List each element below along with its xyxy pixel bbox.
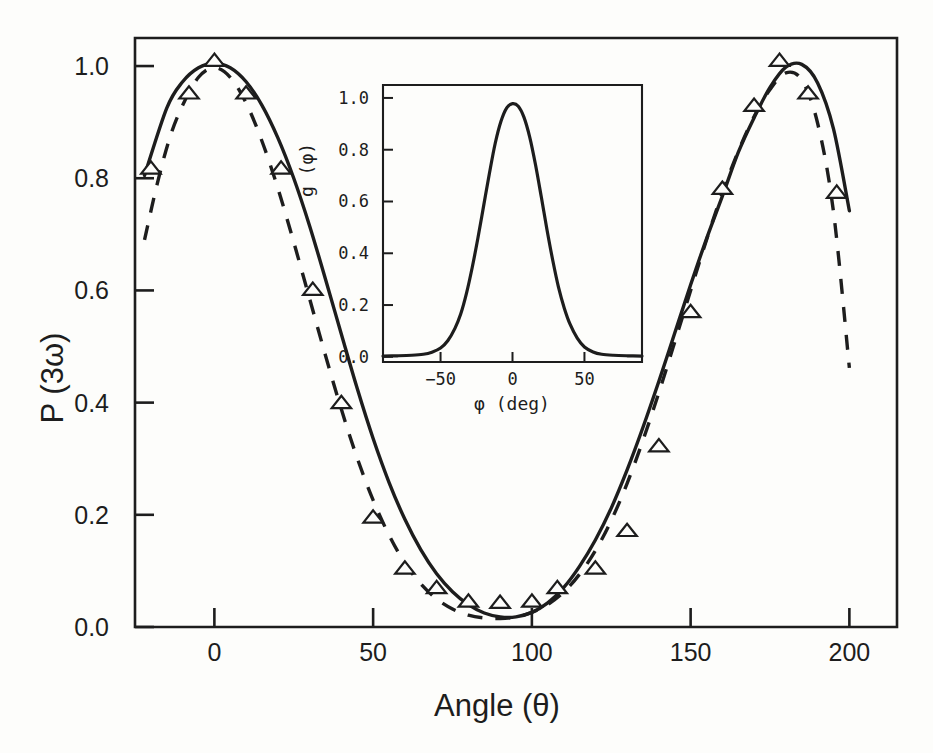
inset-x-tick-label: 50	[574, 369, 594, 389]
inset-y-axis-title: g (φ)	[296, 143, 317, 197]
inset-y-tick-label: 0.0	[338, 347, 369, 367]
x-tick-label: 150	[670, 638, 712, 666]
y-tick-label: 0.0	[74, 613, 109, 641]
y-tick-label: 1.0	[74, 52, 109, 80]
x-tick-label: 200	[829, 638, 871, 666]
inset-y-tick-label: 0.2	[338, 295, 369, 315]
y-tick-label: 0.2	[74, 501, 109, 529]
inset-background	[383, 85, 642, 362]
inset-y-tick-label: 0.4	[338, 243, 369, 263]
inset-x-tick-label: −50	[425, 369, 456, 389]
y-tick-label: 0.6	[74, 276, 109, 304]
inset-y-tick-label: 0.6	[338, 191, 369, 211]
y-axis-title: P (3ω)	[35, 333, 70, 424]
inset-y-tick-label: 0.8	[338, 140, 369, 160]
x-tick-label: 50	[359, 638, 387, 666]
x-tick-label: 100	[511, 638, 553, 666]
y-tick-label: 0.4	[74, 389, 109, 417]
x-axis-title: Angle (θ)	[434, 688, 560, 723]
x-tick-label: 0	[207, 638, 221, 666]
inset-x-axis-title: φ (deg)	[474, 393, 550, 414]
inset-x-tick-label: 0	[507, 369, 517, 389]
y-tick-label: 0.8	[74, 164, 109, 192]
inset-y-tick-label: 1.0	[338, 88, 369, 108]
figure-page: 0.00.20.40.60.81.0 050100150200 P (3ω) A…	[0, 0, 933, 753]
chart-figure: 0.00.20.40.60.81.0 050100150200 P (3ω) A…	[0, 0, 933, 753]
